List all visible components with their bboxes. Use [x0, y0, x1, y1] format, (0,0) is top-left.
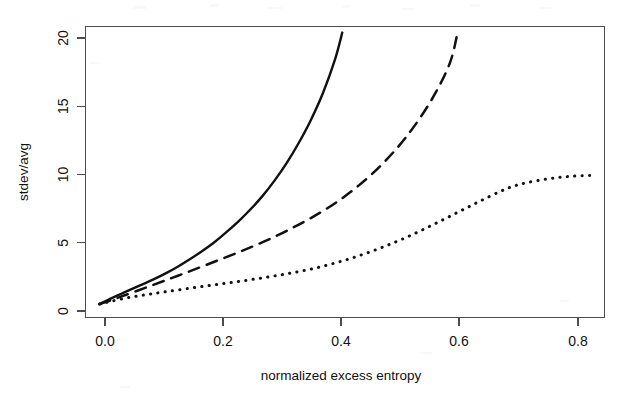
y-tick-label-3: 15 [55, 98, 71, 114]
y-axis-title: stdev/avg [16, 143, 31, 201]
x-tick-label-0: 0.0 [95, 333, 115, 349]
y-tick-label-0: 0 [55, 307, 71, 315]
y-tick-label-1: 5 [55, 239, 71, 247]
x-tick-label-3: 0.6 [449, 333, 469, 349]
x-axis-title: normalized excess entropy [261, 368, 422, 383]
x-tick-label-1: 0.2 [213, 333, 233, 349]
chart-figure: 0.0 0.2 0.4 0.6 0.8 0 5 10 15 20 normali… [0, 0, 618, 408]
figure-background [0, 0, 618, 408]
y-tick-label-4: 20 [55, 30, 71, 46]
x-tick-label-4: 0.8 [568, 333, 588, 349]
y-tick-label-2: 10 [55, 167, 71, 183]
x-tick-label-2: 0.4 [331, 333, 351, 349]
